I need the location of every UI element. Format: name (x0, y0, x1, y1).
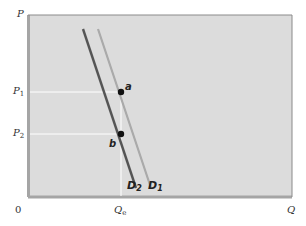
curve-label-d2: D2 (127, 180, 142, 193)
x-axis-label: Q (287, 205, 295, 215)
point-b-label: b (109, 139, 116, 149)
point-b-marker (118, 131, 124, 137)
price-label-p2: P2 (13, 128, 24, 140)
point-a-label: a (125, 82, 132, 92)
curve-label-d1: D1 (148, 180, 163, 193)
plot-area (28, 15, 292, 197)
point-a-marker (118, 89, 124, 95)
origin-label: 0 (15, 205, 21, 215)
price-label-p1: P1 (13, 86, 24, 98)
quantity-label-qe: Qe (114, 205, 126, 217)
y-axis-label: P (17, 9, 24, 19)
